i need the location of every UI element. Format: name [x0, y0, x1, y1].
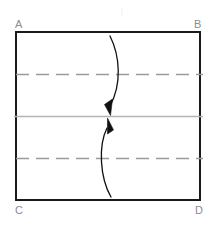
- corner-label-b: B: [194, 19, 201, 30]
- corner-label-c: C: [15, 205, 23, 216]
- corner-label-a: A: [15, 19, 22, 30]
- corner-label-d: D: [195, 205, 203, 216]
- fold-diagram-container: A B C D: [0, 0, 215, 225]
- fold-diagram-canvas: [0, 0, 215, 225]
